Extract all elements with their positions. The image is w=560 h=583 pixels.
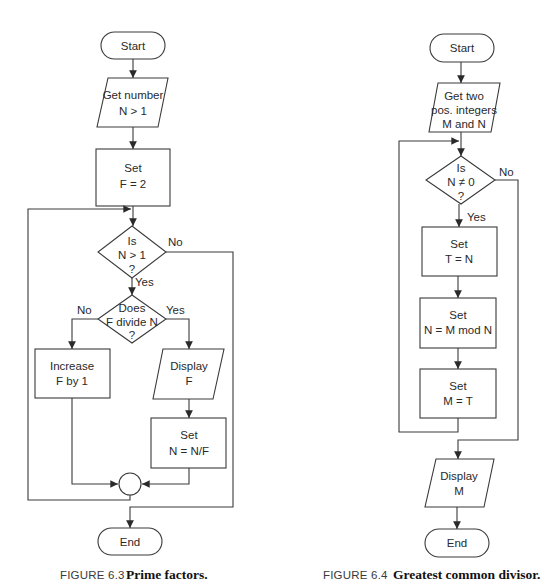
fig64-setM-process-box: Set M = T — [420, 369, 496, 418]
fig63-end-terminator: End — [98, 528, 162, 555]
fig63-cond1-yes-label: Yes — [135, 276, 154, 288]
fig63-input-parallelogram: Get number N > 1 — [97, 78, 168, 127]
fig64-input-line3: M and N — [442, 118, 485, 130]
fig63-start-label: Start — [121, 40, 146, 52]
fig64-cond-line3: ? — [458, 190, 464, 202]
fig64-setT-line2: T = N — [445, 253, 473, 265]
fig64-cond-line2: N ≠ 0 — [447, 176, 474, 188]
fig63-start-terminator: Start — [101, 32, 165, 59]
figure-6-3-prime-factors: Start Get number N > 1 Set F = 2 Is N > … — [28, 32, 233, 582]
fig64-end-label: End — [447, 537, 467, 549]
fig63-divide-process-box: Set N = N/F — [151, 418, 226, 468]
fig63-display-parallelogram: Display F — [153, 349, 224, 399]
fig63-cond1-line2: N > 1 — [118, 249, 146, 261]
fig63-cond1-decision: Is N > 1 ? — [98, 226, 166, 278]
fig64-end-terminator: End — [425, 529, 489, 557]
fig63-cond2-line1: Does — [119, 302, 146, 314]
fig63-init-line2: F = 2 — [120, 178, 147, 190]
fig64-setN-process-box: Set N = M mod N — [420, 298, 496, 348]
fig64-cond-decision: Is N ≠ 0 ? — [426, 156, 495, 204]
fig63-cond2-no-arrow — [72, 319, 98, 349]
fig63-cond1-line3: ? — [129, 263, 135, 275]
flowchart-canvas: Start Get number N > 1 Set F = 2 Is N > … — [0, 0, 560, 583]
fig64-setT-line1: Set — [450, 238, 468, 250]
fig64-caption-number: FIGURE 6.4 — [323, 569, 388, 581]
fig63-join-connector — [119, 473, 141, 495]
fig64-display-line2: M — [454, 485, 464, 497]
fig63-display-line1: Display — [170, 360, 208, 372]
fig64-display-line1: Display — [440, 470, 478, 482]
fig63-cond1-line1: Is — [128, 235, 137, 247]
fig63-divide-to-join-arrow — [142, 468, 189, 484]
fig63-end-label: End — [120, 536, 140, 548]
fig64-start-terminator: Start — [430, 34, 494, 62]
fig64-setN-line1: Set — [449, 309, 467, 321]
fig64-setM-line1: Set — [449, 380, 467, 392]
fig64-display-parallelogram: Display M — [425, 459, 494, 507]
fig64-cond-no-label: No — [499, 166, 514, 178]
figure-6-4-gcd: Start Get two pos. integers M and N Is N… — [323, 34, 540, 582]
fig63-increase-to-join-arrow — [72, 398, 118, 484]
fig63-cond2-no-label: No — [77, 304, 92, 316]
fig63-increase-line2: F by 1 — [56, 375, 88, 387]
fig64-input-line2: pos. integers — [431, 104, 497, 116]
fig63-increase-process-box: Increase F by 1 — [35, 349, 110, 398]
fig64-setM-line2: M = T — [443, 395, 473, 407]
fig63-caption: FIGURE 6.3 Prime factors. — [60, 567, 208, 582]
fig63-cond2-yes-label: Yes — [166, 304, 185, 316]
fig64-setN-line2: N = M mod N — [424, 324, 492, 336]
fig63-cond2-decision: Does F divide N ? — [98, 295, 166, 343]
fig64-input-line1: Get two — [444, 90, 484, 102]
fig63-input-line1: Get number — [103, 89, 164, 101]
fig63-display-line2: F — [185, 375, 192, 387]
fig63-init-line1: Set — [124, 162, 142, 174]
fig64-input-parallelogram: Get two pos. integers M and N — [429, 83, 500, 132]
fig64-cond-line1: Is — [457, 162, 466, 174]
fig63-init-process-box: Set F = 2 — [96, 149, 170, 206]
fig64-setT-process-box: Set T = N — [422, 227, 497, 276]
fig63-divide-line1: Set — [180, 429, 198, 441]
fig64-cond-yes-label: Yes — [467, 211, 486, 223]
fig64-start-label: Start — [450, 42, 475, 54]
fig64-caption-title: Greatest common divisor. — [393, 567, 540, 582]
fig63-cond1-no-label: No — [168, 236, 183, 248]
fig63-cond2-yes-arrow — [166, 319, 189, 349]
fig63-divide-line2: N = N/F — [169, 445, 209, 457]
fig63-increase-line1: Increase — [50, 360, 94, 372]
fig64-caption: FIGURE 6.4 Greatest common divisor. — [323, 567, 540, 582]
fig63-cond2-line3: ? — [129, 329, 135, 341]
fig63-cond2-line2: F divide N — [106, 316, 158, 328]
fig63-caption-number: FIGURE 6.3 — [60, 569, 125, 581]
fig63-caption-title: Prime factors. — [126, 567, 208, 582]
fig63-input-line2: N > 1 — [119, 105, 147, 117]
